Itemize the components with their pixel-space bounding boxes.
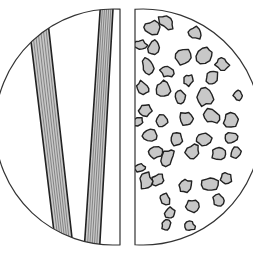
granule-particle [223, 113, 238, 128]
granule-particle [142, 129, 157, 141]
granule-particle [148, 40, 160, 55]
granule-particle [134, 164, 145, 172]
granule-particle [175, 90, 185, 104]
granule-particle [160, 67, 175, 77]
granule-particle [137, 80, 149, 94]
granule-particle [203, 109, 219, 124]
granule-particle [184, 75, 193, 87]
granule-particle [179, 179, 192, 192]
granule-particle [233, 90, 243, 100]
granule-particle [138, 105, 152, 117]
diagram-canvas [0, 0, 253, 253]
granule-particle [185, 144, 199, 159]
granule-particle [140, 172, 153, 189]
granule-particle [215, 58, 230, 71]
granule-particle [185, 221, 196, 230]
granule-particle [144, 20, 160, 34]
granule-particle [180, 113, 193, 126]
granule-particle [132, 118, 142, 126]
granule-particle [196, 133, 212, 146]
granule-particle [206, 71, 218, 84]
granule-particle [175, 50, 191, 66]
granule-particle [161, 150, 174, 167]
granule-particle [196, 47, 212, 64]
fiber-band [30, 10, 73, 248]
granule-particle [225, 133, 238, 144]
granule-particle [142, 58, 154, 75]
granule-particle [158, 16, 173, 30]
granule-particle [164, 207, 175, 218]
left-half-fibrous-section [0, 0, 120, 253]
granule-particle [188, 26, 201, 39]
granule-particle [160, 193, 170, 205]
granule-particle [197, 88, 214, 107]
granule-particle [148, 147, 162, 159]
right-half-granular-section [132, 9, 253, 245]
granule-particle [201, 178, 218, 190]
granule-particle [171, 133, 182, 146]
split-circle-diagram [0, 0, 253, 253]
granule-particle [212, 148, 226, 160]
granule-particle [213, 194, 224, 206]
granule-particle [162, 220, 171, 231]
granule-particle [156, 115, 168, 127]
granule-particle [152, 174, 164, 186]
granule-particle [220, 173, 231, 184]
granule-particle [231, 147, 241, 158]
granule-particle [186, 200, 200, 212]
granule-particle [156, 80, 171, 96]
